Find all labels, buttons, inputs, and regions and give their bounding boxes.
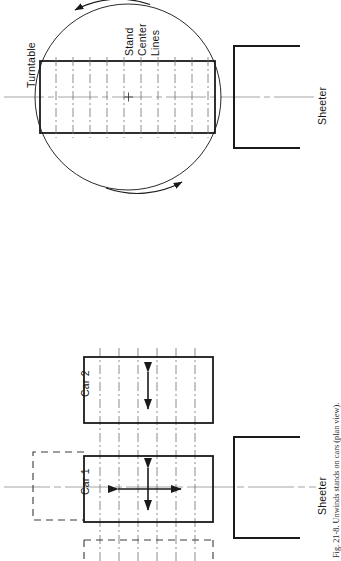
label-car-2: Car 2 [79,370,91,397]
sheeter-bracket-bottom [234,437,300,538]
label-lines: Lines [149,30,161,56]
car-1-motion-arrows [118,468,181,510]
label-sheeter-top: Sheeter [316,87,328,125]
dashed-outline-bottom [84,540,213,561]
label-stand: Stand [123,28,135,56]
label-turntable: Turntable [25,42,37,88]
label-sheeter-bottom: Sheeter [316,477,328,515]
label-center: Center [136,23,148,56]
rotation-arrow-bottom [106,182,182,193]
dashed-outline-left [33,452,84,520]
label-car-1: Car 1 [79,468,91,495]
figure-caption: Fig. 21-8. Unwinds stands on cars (plan … [332,403,341,558]
